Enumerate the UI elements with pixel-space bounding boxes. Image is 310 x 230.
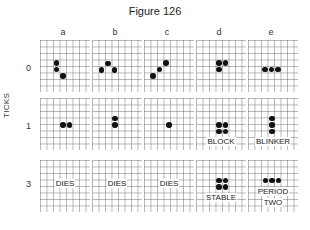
panel-e-tick-1: BLINKER xyxy=(248,98,298,150)
live-cell xyxy=(166,122,172,128)
caption-block: BLOCK xyxy=(206,137,235,146)
caption-dies: DIES xyxy=(107,179,128,188)
panel-b-tick-0 xyxy=(92,40,142,92)
live-cell xyxy=(269,116,275,122)
panel-a-tick-1 xyxy=(40,98,90,150)
panel-d-tick-0 xyxy=(196,40,246,92)
panel-a-tick-3: DIES xyxy=(40,160,90,212)
live-cell xyxy=(150,73,156,79)
panel-b-tick-3: DIES xyxy=(92,160,142,212)
live-cell xyxy=(216,60,222,66)
panel-caption: BLOCK xyxy=(196,137,246,146)
panel-caption: DIES xyxy=(92,179,142,188)
panel-caption: PERIOD xyxy=(248,187,298,196)
row-label-3: 3 xyxy=(11,179,31,189)
live-cell xyxy=(60,73,66,79)
panel-caption: TWO xyxy=(248,198,298,207)
live-cell xyxy=(216,184,222,190)
column-label-a: a xyxy=(43,27,83,37)
live-cell xyxy=(269,178,275,184)
live-cell xyxy=(269,129,275,135)
live-cell xyxy=(216,67,222,73)
live-cell xyxy=(54,67,60,73)
live-cell xyxy=(223,178,229,184)
caption-two: TWO xyxy=(263,198,284,207)
live-cell xyxy=(112,67,118,73)
panel-caption: DIES xyxy=(40,179,90,188)
column-label-c: c xyxy=(147,27,187,37)
panel-d-tick-1: BLOCK xyxy=(196,98,246,150)
column-label-e: e xyxy=(251,27,291,37)
live-cell xyxy=(276,178,282,184)
caption-period: PERIOD xyxy=(257,187,290,196)
live-cell xyxy=(269,67,275,73)
y-axis-title: TICKS xyxy=(2,93,11,118)
live-cell xyxy=(223,122,229,128)
figure-title: Figure 126 xyxy=(0,5,310,17)
live-cell xyxy=(216,178,222,184)
caption-blinker: BLINKER xyxy=(255,137,291,146)
live-cell xyxy=(216,122,222,128)
caption-stable: STABLE xyxy=(205,193,237,202)
live-cell xyxy=(223,184,229,190)
live-cell xyxy=(223,129,229,135)
column-label-b: b xyxy=(95,27,135,37)
caption-dies: DIES xyxy=(55,179,76,188)
live-cell xyxy=(105,61,111,67)
panel-caption: BLINKER xyxy=(248,137,298,146)
panel-a-tick-0 xyxy=(40,40,90,92)
panel-e-tick-0 xyxy=(248,40,298,92)
panel-e-tick-3: PERIOD TWO xyxy=(248,160,298,212)
live-cell xyxy=(263,178,269,184)
panel-c-tick-3: DIES xyxy=(144,160,194,212)
live-cell xyxy=(67,122,73,128)
panel-c-tick-0 xyxy=(144,40,194,92)
live-cell xyxy=(54,60,60,66)
panel-c-tick-1 xyxy=(144,98,194,150)
panel-b-tick-1 xyxy=(92,98,142,150)
live-cell xyxy=(269,122,275,128)
live-cell xyxy=(223,60,229,66)
panel-caption: STABLE xyxy=(196,193,246,202)
row-label-0: 0 xyxy=(11,63,31,73)
live-cell xyxy=(60,122,66,128)
live-cell xyxy=(163,60,169,66)
live-cell xyxy=(99,67,105,73)
panel-caption: DIES xyxy=(144,179,194,188)
live-cell xyxy=(262,67,268,73)
live-cell xyxy=(275,67,281,73)
live-cell xyxy=(112,122,118,128)
live-cell xyxy=(157,67,163,73)
column-label-d: d xyxy=(199,27,239,37)
row-label-1: 1 xyxy=(11,121,31,131)
panel-d-tick-3: STABLE xyxy=(196,160,246,212)
live-cell xyxy=(216,129,222,135)
live-cell xyxy=(112,116,118,122)
caption-dies: DIES xyxy=(159,179,180,188)
